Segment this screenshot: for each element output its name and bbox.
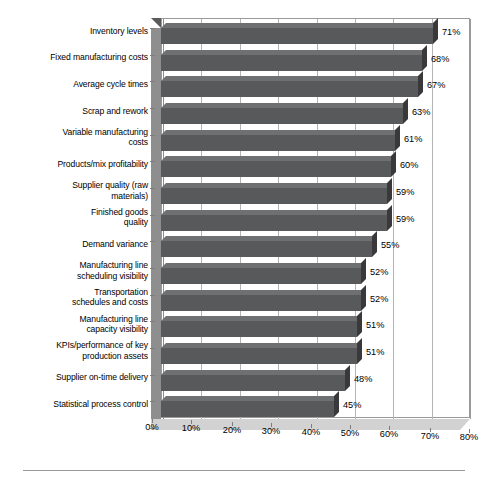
footer-divider-rule	[23, 470, 465, 471]
bar-value-label: 60%	[400, 160, 418, 171]
bar	[161, 370, 350, 386]
y-axis-tick	[150, 108, 155, 109]
category-label: Variable manufacturing costs	[0, 127, 148, 148]
bar-front-face	[161, 28, 433, 44]
bar-front-face	[161, 161, 391, 177]
x-axis-label-30pct: 30%	[262, 426, 280, 437]
bar-value-label: 59%	[396, 214, 414, 225]
bar-front-face	[161, 135, 395, 151]
gridline-80pct	[470, 19, 471, 419]
y-axis-tick	[150, 348, 155, 349]
bar-end-face	[345, 365, 350, 391]
y-axis-tick	[150, 81, 155, 82]
y-axis-tick	[150, 161, 155, 162]
category-label: Finished goods quality	[0, 207, 148, 228]
x-axis-label-60pct: 60%	[380, 429, 398, 440]
bar-front-face	[161, 241, 372, 257]
category-label: Manufacturing line capacity visibility	[0, 314, 148, 335]
category-label: Fixed manufacturing costs	[0, 52, 148, 63]
y-axis-tick	[150, 375, 155, 376]
bar	[161, 210, 392, 226]
bar	[161, 23, 438, 39]
bar-front-face	[161, 215, 387, 231]
bar	[161, 76, 423, 92]
plot-top-corner-3d	[151, 18, 161, 28]
y-axis-category-labels: Inventory levelsFixed manufacturing cost…	[0, 18, 148, 430]
bar	[161, 103, 408, 119]
bar-value-label: 51%	[366, 347, 384, 358]
bar	[161, 183, 392, 199]
y-axis-tick	[150, 295, 155, 296]
bar-value-label: 55%	[381, 240, 399, 251]
y-axis-tick	[150, 135, 155, 136]
bar	[161, 130, 400, 146]
x-axis-label-10pct: 10%	[182, 423, 200, 434]
y-axis-tick	[150, 188, 155, 189]
x-axis-label-70pct: 70%	[421, 431, 439, 442]
bar-value-label: 52%	[370, 294, 388, 305]
bar-value-label: 51%	[366, 320, 384, 331]
bar-end-face	[387, 205, 392, 231]
bar-value-label: 52%	[370, 267, 388, 278]
x-axis-label-50pct: 50%	[341, 428, 359, 439]
plot-area	[151, 18, 470, 430]
y-axis-tick	[150, 241, 155, 242]
x-axis-label-20pct: 20%	[223, 425, 241, 436]
bar-end-face	[422, 45, 427, 71]
bar-value-label: 63%	[412, 107, 430, 118]
bar	[161, 50, 427, 66]
bar-front-face	[161, 295, 361, 311]
category-label: Supplier quality (raw materials)	[0, 180, 148, 201]
bar	[161, 343, 362, 359]
bar	[161, 290, 366, 306]
bar-value-label: 71%	[442, 27, 460, 38]
bar-front-face	[161, 375, 345, 391]
bar	[161, 396, 339, 412]
bar-front-face	[161, 321, 357, 337]
category-label: Average cycle times	[0, 79, 148, 90]
x-axis-label-0pct: 0%	[145, 422, 158, 433]
category-label: Scrap and rework	[0, 106, 148, 117]
bar-value-label: 45%	[343, 400, 361, 411]
bar-end-face	[395, 125, 400, 151]
bar-front-face	[161, 108, 403, 124]
bar-end-face	[361, 285, 366, 311]
category-label: Manufacturing line scheduling visibility	[0, 260, 148, 281]
bar-front-face	[161, 348, 357, 364]
bar	[161, 316, 362, 332]
bar-front-face	[161, 81, 418, 97]
x-axis-label-80pct: 80%	[460, 432, 478, 443]
y-axis-tick	[150, 28, 155, 29]
bar-value-label: 48%	[354, 374, 372, 385]
bar-chart: Inventory levelsFixed manufacturing cost…	[0, 0, 485, 485]
category-label: Products/mix profitability	[0, 159, 148, 170]
bar-front-face	[161, 188, 387, 204]
x-axis-label-40pct: 40%	[302, 427, 320, 438]
category-label: Supplier on-time delivery	[0, 372, 148, 383]
category-label: Demand variance	[0, 239, 148, 250]
bar-front-face	[161, 268, 361, 284]
category-label: Transportation schedules and costs	[0, 287, 148, 308]
bar	[161, 236, 377, 252]
y-axis-tick	[150, 215, 155, 216]
bar-value-label: 68%	[431, 54, 449, 65]
y-axis-tick	[150, 321, 155, 322]
y-axis-tick	[150, 268, 155, 269]
plot-left-wall-3d	[151, 28, 161, 430]
bar	[161, 156, 396, 172]
bar-value-label: 67%	[427, 80, 445, 91]
y-axis-tick	[150, 401, 155, 402]
category-label: Inventory levels	[0, 26, 148, 37]
category-label: KPIs/performance of key production asset…	[0, 340, 148, 361]
bar	[161, 263, 366, 279]
category-label: Statistical process control	[0, 399, 148, 410]
bar-front-face	[161, 401, 334, 417]
y-axis-tick	[150, 55, 155, 56]
bar-value-label: 59%	[396, 187, 414, 198]
bar-front-face	[161, 55, 422, 71]
gridline-70pct	[432, 19, 433, 419]
bar-value-label: 61%	[404, 134, 422, 145]
